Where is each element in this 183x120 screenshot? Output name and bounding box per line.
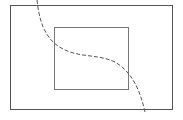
background bbox=[0, 0, 183, 120]
diagram-canvas bbox=[0, 0, 183, 120]
